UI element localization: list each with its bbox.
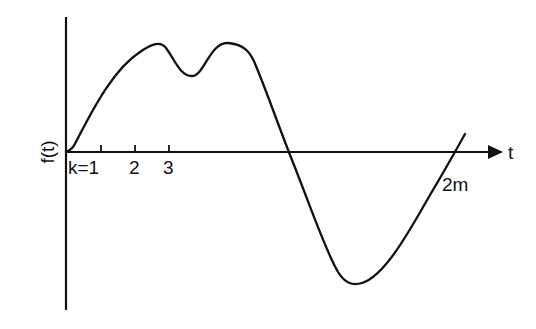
y-axis-label: f(t) <box>37 140 58 163</box>
function-curve <box>66 43 465 284</box>
x-axis-arrow-icon <box>488 145 503 159</box>
function-diagram: f(t) t k=1 2 3 2m <box>0 0 536 329</box>
tick-label-2: 2 <box>129 157 140 178</box>
end-label-2m: 2m <box>442 174 468 195</box>
tick-label-3: 3 <box>163 157 174 178</box>
tick-label-1: k=1 <box>68 157 99 178</box>
x-axis-label: t <box>508 142 514 163</box>
